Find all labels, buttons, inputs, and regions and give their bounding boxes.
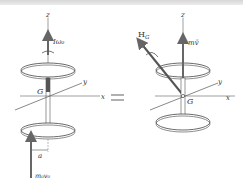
left-omega-label: Iω₀ [52, 38, 64, 46]
mv-label: mv̄ [188, 39, 199, 47]
left-z-label: z [45, 11, 50, 19]
diagram: z Iω₀ y x G a m₀v₀ z H G mv̄ y x G [0, 0, 243, 189]
shaft-dark [46, 78, 50, 92]
impulse-label: m₀v₀ [35, 172, 50, 180]
lower-disc-right [156, 114, 210, 130]
hg-subscript: G [145, 34, 150, 40]
right-x-label: x [226, 94, 230, 102]
right-g-label: G [187, 97, 194, 106]
equals-sign [111, 94, 124, 101]
left-g-label: G [37, 87, 44, 96]
offset-a-label: a [38, 152, 42, 160]
left-x-label: x [101, 93, 105, 101]
right-z-label: z [180, 11, 185, 19]
hg-label: H [138, 30, 145, 39]
left-y-label: y [82, 78, 88, 86]
right-body [140, 18, 235, 132]
g-point [181, 94, 184, 97]
right-y-label: y [217, 78, 223, 86]
